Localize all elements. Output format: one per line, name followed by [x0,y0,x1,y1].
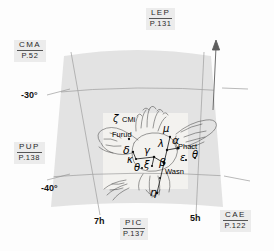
star-chart-panel: LEP P.131 CMA P.52 PUP P.138 PIC P.137 C… [0,0,274,251]
star-label-eta: η [150,186,157,199]
star-dot [132,151,134,153]
star-label-lambda: λ [158,138,164,149]
star-label-epsilon: ε [180,152,185,163]
ra-label-5h: 5h [190,213,201,223]
leader-dec-right-low [224,176,250,181]
dec-label-minus30: -30° [21,90,38,100]
star-label-furud: Furud [112,130,132,139]
neighbor-page: P.122 [223,221,248,230]
neighbor-page: P.137 [123,229,145,238]
neighbor-page: P.138 [17,153,42,162]
star-label-zeta: ζ [113,113,118,124]
star-label-mu: μ [163,123,169,134]
neighbor-abbr: PIC [123,219,145,229]
neighbor-abbr: CMA [17,41,43,51]
star-label-theta-left: θ [134,162,140,173]
neighbor-abbr: LEP [149,9,172,19]
neighbor-ref-cae[interactable]: CAE P.122 [220,210,251,232]
star-dot [141,167,143,169]
leader-dec-right [222,88,248,89]
neighbor-abbr: PUP [17,143,42,153]
star-dot [151,165,153,167]
neighbor-page: P.52 [17,51,43,60]
neighbor-ref-pic[interactable]: PIC P.137 [120,218,148,240]
star-dot [169,136,171,138]
star-label-kappa: κ [127,154,133,165]
neighbor-ref-cma[interactable]: CMA P.52 [14,40,46,62]
ra-label-7h: 7h [94,216,105,226]
neighbor-page: P.131 [149,19,172,28]
neighbor-ref-lep[interactable]: LEP P.131 [146,8,175,30]
star-label-theta-right: θ [192,149,198,160]
star-label-cmi: CMi [122,115,135,124]
star-dot [135,158,137,160]
star-dot [159,177,161,179]
neighbor-ref-pup[interactable]: PUP P.138 [14,142,45,164]
north-arrow-icon [212,40,219,110]
star-label-wasn: Wasn [165,167,184,176]
star-dot [166,149,168,151]
neighbor-abbr: CAE [223,211,248,221]
star-dot [153,156,156,159]
star-label-xi: ξ [144,159,150,170]
star-label-gamma: γ [144,145,150,156]
dec-label-minus40: -40° [41,183,58,193]
